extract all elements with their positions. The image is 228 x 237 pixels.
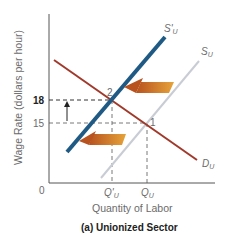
point-1-label: 1 bbox=[150, 117, 156, 128]
arrow-up-icon bbox=[64, 101, 70, 107]
x-axis-title: Quantity of Labor bbox=[92, 202, 173, 214]
original-supply-label: SU bbox=[201, 46, 214, 58]
y-axis-title: Wage Rate (dollars per hour) bbox=[12, 30, 24, 165]
demand-label: DU bbox=[202, 158, 215, 170]
x-tick-q: QU bbox=[141, 187, 155, 199]
new-supply-label: S'U bbox=[164, 23, 179, 35]
shift-arrow-lower bbox=[79, 131, 126, 145]
shift-arrow-upper bbox=[124, 78, 174, 93]
point-2-label: 2 bbox=[107, 87, 113, 98]
origin-label: 0 bbox=[39, 185, 45, 196]
x-tick-q-prime: Q'U bbox=[104, 187, 120, 199]
y-tick-15: 15 bbox=[33, 118, 45, 129]
unionized-sector-diagram: 2 1 18 15 0 Q'U QU S'U SU DU Wage Rate (… bbox=[0, 0, 228, 237]
figure-caption: (a) Unionized Sector bbox=[81, 222, 178, 233]
y-tick-18: 18 bbox=[33, 95, 45, 106]
